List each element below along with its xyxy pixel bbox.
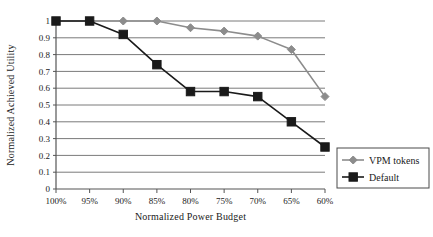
- x-axis-tick-label: 85%: [149, 196, 166, 206]
- x-axis-tick-label: 100%: [46, 196, 68, 206]
- data-point-marker: [186, 87, 194, 95]
- y-axis-tick-label: 0.2: [39, 151, 50, 161]
- data-point-marker: [220, 27, 228, 35]
- x-axis-title: Normalized Power Budget: [135, 211, 246, 222]
- data-point-marker: [153, 17, 161, 25]
- legend-label-2: Default: [369, 172, 399, 183]
- y-axis-tick-label: 0.5: [39, 100, 51, 110]
- y-axis-tick-label: 0.4: [39, 117, 51, 127]
- legend-marker-2: [349, 173, 357, 181]
- data-point-marker: [254, 92, 262, 100]
- y-axis-tick-label: 0.6: [39, 83, 51, 93]
- x-axis-tick-label: 60%: [317, 196, 334, 206]
- y-axis-tick-label: 0.7: [39, 67, 51, 77]
- y-axis-tick-label: 0.8: [39, 50, 51, 60]
- data-point-marker: [52, 17, 60, 25]
- line-chart: 00.10.20.30.40.50.60.70.80.91100%95%90%8…: [0, 0, 433, 237]
- x-axis-tick-label: 80%: [182, 196, 199, 206]
- x-axis-tick-label: 70%: [250, 196, 267, 206]
- y-axis-tick-label: 0: [46, 184, 51, 194]
- data-point-marker: [321, 143, 329, 151]
- chart-container: 00.10.20.30.40.50.60.70.80.91100%95%90%8…: [0, 0, 433, 237]
- data-point-marker: [119, 17, 127, 25]
- y-axis-tick-label: 0.9: [39, 33, 51, 43]
- data-point-marker: [153, 60, 161, 68]
- y-axis-title: Normalized Achieved Utility: [5, 44, 16, 165]
- y-axis-tick-label: 0.3: [39, 134, 51, 144]
- data-point-marker: [85, 17, 93, 25]
- x-axis-tick-label: 90%: [115, 196, 132, 206]
- y-axis-tick-label: 0.1: [39, 167, 50, 177]
- data-point-marker: [287, 118, 295, 126]
- x-axis-tick-label: 65%: [283, 196, 300, 206]
- series-line-2: [56, 21, 325, 147]
- legend-label-1: VPM tokens: [369, 155, 419, 166]
- data-point-marker: [187, 24, 195, 32]
- x-axis-tick-label: 95%: [81, 196, 98, 206]
- data-point-marker: [119, 30, 127, 38]
- y-axis-tick-label: 1: [46, 16, 51, 26]
- data-point-marker: [254, 32, 262, 40]
- x-axis-tick-label: 75%: [216, 196, 233, 206]
- data-point-marker: [220, 87, 228, 95]
